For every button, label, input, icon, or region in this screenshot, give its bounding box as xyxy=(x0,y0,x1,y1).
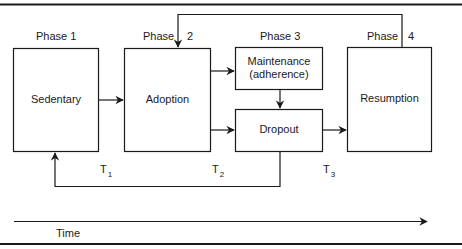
phase-4-label: Phase xyxy=(367,30,398,43)
sedentary-label: Sedentary xyxy=(13,93,99,106)
phase-3-label: Phase 3 xyxy=(260,30,300,43)
phase-2-label: Phase xyxy=(143,30,174,43)
adoption-label: Adoption xyxy=(124,93,211,106)
time-marker-subscript: 1 xyxy=(108,170,112,179)
dropout-label: Dropout xyxy=(235,123,323,136)
time-marker-t2: T2 xyxy=(212,163,224,177)
time-marker-t1: T1 xyxy=(100,163,112,177)
time-axis-label: Time xyxy=(56,227,80,240)
time-marker-subscript: 3 xyxy=(331,170,335,179)
resumption-label: Resumption xyxy=(347,92,432,105)
time-marker-t3: T3 xyxy=(323,163,335,177)
phase-4-number: 4 xyxy=(408,30,414,43)
arrow-dropout-to-sedentary xyxy=(55,152,280,187)
phase-2-number: 2 xyxy=(187,30,193,43)
phase-1-label: Phase 1 xyxy=(36,30,76,43)
time-marker-letter: T xyxy=(100,163,107,175)
time-marker-subscript: 2 xyxy=(220,170,224,179)
maintenance-sublabel: (adherence) xyxy=(235,68,323,81)
time-marker-letter: T xyxy=(212,163,219,175)
time-marker-letter: T xyxy=(323,163,330,175)
maintenance-label: Maintenance xyxy=(235,55,323,68)
